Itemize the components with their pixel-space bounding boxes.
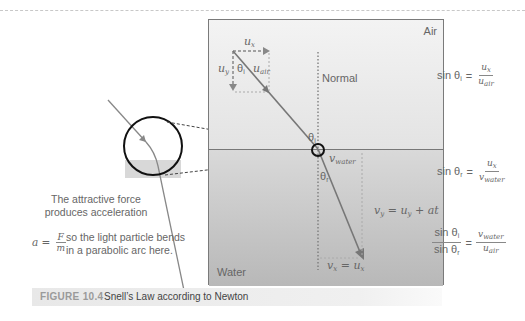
- annotation-text: The attractive force produces accelerati…: [36, 193, 156, 219]
- annotation-line-2: produces acceleration: [36, 206, 156, 219]
- ux-label: ux: [244, 35, 255, 49]
- annotation-text-2: so the light particle bends in a parabol…: [66, 231, 185, 257]
- equation-snell-ratio: sin θisin θr = vwateruair: [432, 226, 506, 259]
- figure-number: FIGURE 10.4: [40, 291, 103, 302]
- vx-equation-label: vx = ux: [327, 259, 364, 273]
- acceleration-formula: a = Fm: [32, 232, 67, 253]
- snell-diagram-panel: Air Water Normal ux uy θi uair θi vwater…: [208, 19, 444, 285]
- water-label: Water: [217, 266, 246, 278]
- figure-caption-text: Snell’s Law according to Newton: [104, 291, 248, 302]
- annotation-line-1: The attractive force: [36, 193, 156, 206]
- vwater-label: vwater: [329, 152, 356, 166]
- uair-label: uair: [253, 62, 270, 76]
- theta-i-normal-label: θi: [308, 131, 316, 144]
- figure-caption: FIGURE 10.4 Snell’s Law according to New…: [32, 288, 442, 306]
- air-label: Air: [424, 25, 437, 37]
- equation-sin-theta-r: sin θr = uxvwater: [437, 158, 507, 185]
- theta-r-label: θr: [320, 170, 328, 183]
- panel-vectors: [209, 20, 445, 286]
- equation-sin-theta-i: sin θi = uxuair: [437, 62, 496, 89]
- theta-i-label: θi: [237, 62, 245, 75]
- uy-label: uy: [218, 62, 229, 76]
- vy-equation-label: vy = uy + at: [374, 204, 439, 218]
- normal-label: Normal: [322, 72, 357, 84]
